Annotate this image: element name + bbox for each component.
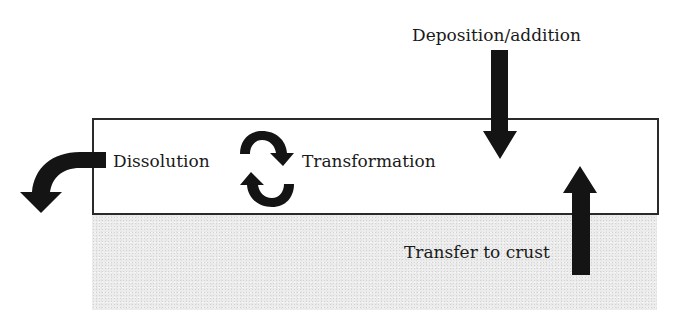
dissolution-label: Dissolution [113,151,210,171]
transformation-label: Transformation [302,151,436,171]
transfer-to-crust-label: Transfer to crust [404,242,550,262]
transfer-arrow-icon [563,166,597,275]
deposition-label: Deposition/addition [412,25,581,45]
transformation-cycle-icon [240,131,294,207]
deposition-arrow-icon [483,50,517,159]
dissolution-arrow-icon [20,152,106,213]
